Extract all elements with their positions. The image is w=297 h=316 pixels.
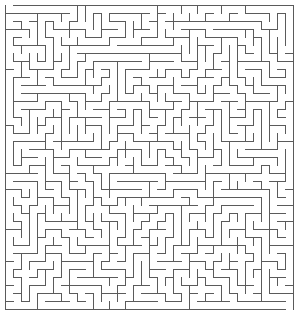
maze-walls: [0, 0, 297, 316]
maze-canvas[interactable]: [0, 0, 297, 316]
